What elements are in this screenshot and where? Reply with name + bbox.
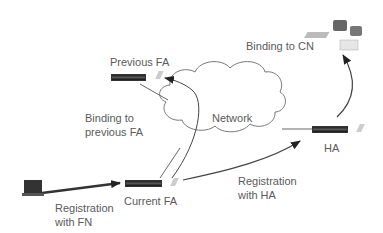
arrow-binding-cn (337, 55, 353, 117)
link-current-fa-network (160, 148, 180, 178)
arrow-registration-fn (42, 183, 120, 193)
label-network: Network (212, 112, 252, 125)
diagram-canvas (0, 0, 383, 233)
router-previous-fa (111, 74, 146, 81)
router-current-fa (125, 180, 162, 187)
router-ha (312, 126, 348, 133)
laptop-icon (22, 180, 44, 196)
label-registration-fn-line2: with FN (55, 216, 92, 229)
label-registration-fn-line1: Registration (55, 202, 114, 215)
label-current-fa: Current FA (124, 195, 177, 208)
label-registration-ha-line2: with HA (238, 189, 276, 202)
mobile-ip-diagram: Previous FA Binding to CN Network Bindin… (0, 0, 383, 233)
label-registration-ha-line1: Registration (238, 175, 297, 188)
label-previous-fa: Previous FA (110, 56, 169, 69)
label-binding-previous-line2: previous FA (85, 126, 143, 139)
label-binding-previous-line1: Binding to (85, 112, 134, 125)
label-ha: HA (324, 142, 339, 155)
label-binding-cn: Binding to CN (246, 40, 314, 53)
